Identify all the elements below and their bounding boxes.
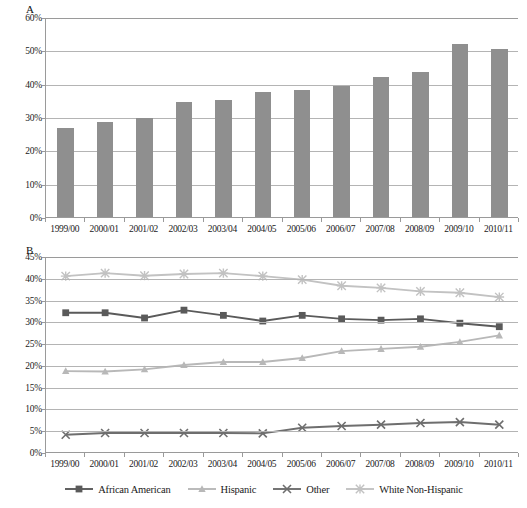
x-tick-mark — [124, 218, 125, 222]
x-tick-label: 2008/09 — [405, 459, 434, 469]
x-tick-label: 2003/04 — [208, 459, 237, 469]
legend-label: White Non-Hispanic — [379, 484, 463, 495]
x-tick-mark — [203, 218, 204, 222]
asterisk-marker — [337, 281, 347, 290]
x-tick-mark — [45, 218, 46, 222]
bar — [97, 122, 114, 217]
asterisk-marker — [455, 288, 465, 297]
panel-b: B 0%5%10%15%20%25%30%35%40%45% 1999/0020… — [0, 243, 527, 508]
gridline — [46, 85, 518, 86]
x-tick-mark — [242, 218, 243, 222]
gridline — [46, 366, 518, 367]
x-tick-label: 2000/01 — [90, 459, 119, 469]
gridline — [46, 431, 518, 432]
x-tick-label: 2010/11 — [484, 459, 513, 469]
y-tick-label: 40% — [25, 274, 42, 284]
asterisk-marker — [355, 484, 365, 493]
triangle-icon — [187, 483, 217, 495]
square-marker — [76, 486, 83, 493]
x-tick-label: 2001/02 — [129, 224, 158, 234]
y-tick-label: 25% — [25, 339, 42, 349]
x-tick-label: 1999/00 — [50, 459, 79, 469]
bar — [452, 44, 469, 217]
square-marker — [102, 309, 109, 316]
x-tick-mark — [84, 453, 85, 457]
x-tick-mark — [439, 218, 440, 222]
gridline — [46, 185, 518, 186]
x-tick-label: 2001/02 — [129, 459, 158, 469]
x-tick-mark — [400, 453, 401, 457]
series-hispanic — [62, 332, 503, 375]
gridline — [46, 301, 518, 302]
y-tick-label: 20% — [25, 361, 42, 371]
y-tick-label: 45% — [25, 252, 42, 262]
bar — [294, 90, 311, 217]
x-tick-mark — [84, 218, 85, 222]
x-icon — [272, 483, 302, 495]
panel-a-x-ticks — [45, 218, 518, 222]
y-tick-label: 20% — [25, 146, 42, 156]
x-tick-label: 2007/08 — [366, 459, 395, 469]
x-tick-mark — [321, 218, 322, 222]
square-marker — [417, 315, 424, 322]
gridline — [46, 257, 518, 258]
square-marker — [259, 318, 266, 325]
y-tick-label: 35% — [25, 296, 42, 306]
x-tick-label: 2005/06 — [287, 224, 316, 234]
x-tick-mark — [124, 453, 125, 457]
legend-item[interactable]: Other — [272, 483, 329, 495]
x-tick-mark — [45, 453, 46, 457]
panel-b-plot-area — [45, 257, 518, 453]
legend-item[interactable]: African American — [64, 483, 170, 495]
asterisk-marker — [416, 287, 426, 296]
x-tick-mark — [282, 218, 283, 222]
series-african-american — [62, 307, 502, 330]
legend-label: African American — [98, 484, 170, 495]
legend-label: Hispanic — [221, 484, 257, 495]
x-tick-label: 2009/10 — [444, 459, 473, 469]
x-tick-mark — [518, 453, 519, 457]
x-tick-mark — [360, 218, 361, 222]
series-line — [66, 422, 500, 435]
x-tick-label: 2002/03 — [168, 459, 197, 469]
gridline — [46, 51, 518, 52]
y-tick-label: 30% — [25, 113, 42, 123]
asterisk-marker — [179, 269, 189, 278]
x-tick-label: 2002/03 — [168, 224, 197, 234]
x-tick-mark — [203, 453, 204, 457]
square-marker — [181, 307, 188, 314]
y-tick-label: 5% — [30, 426, 42, 436]
x-tick-label: 2007/08 — [366, 224, 395, 234]
y-tick-label: 10% — [25, 180, 42, 190]
y-tick-label: 0% — [30, 448, 42, 458]
y-tick-label: 10% — [25, 404, 42, 414]
y-tick-label: 30% — [25, 317, 42, 327]
gridline — [46, 409, 518, 410]
gridline — [46, 344, 518, 345]
x-tick-label: 2004/05 — [247, 224, 276, 234]
x-tick-mark — [518, 218, 519, 222]
square-marker — [220, 312, 227, 319]
bar — [57, 128, 74, 217]
panel-b-legend: African AmericanHispanicOtherWhite Non-H… — [0, 483, 527, 495]
x-tick-mark — [163, 218, 164, 222]
square-marker — [338, 315, 345, 322]
panel-a-plot-area — [45, 18, 518, 218]
asterisk-icon — [345, 483, 375, 495]
x-tick-label: 2006/07 — [326, 224, 355, 234]
gridline — [46, 151, 518, 152]
x-tick-mark — [479, 453, 480, 457]
legend-label: Other — [306, 484, 329, 495]
x-tick-mark — [321, 453, 322, 457]
y-tick-label: 15% — [25, 383, 42, 393]
panel-a-y-axis: 0%10%20%30%40%50%60% — [0, 18, 42, 218]
legend-item[interactable]: White Non-Hispanic — [345, 483, 463, 495]
x-tick-mark — [242, 453, 243, 457]
bar — [176, 102, 193, 217]
gridline — [46, 18, 518, 19]
gridline — [46, 279, 518, 280]
series-line — [66, 310, 500, 327]
legend-item[interactable]: Hispanic — [187, 483, 257, 495]
x-tick-label: 1999/00 — [50, 224, 79, 234]
panel-b-x-ticks — [45, 453, 518, 457]
